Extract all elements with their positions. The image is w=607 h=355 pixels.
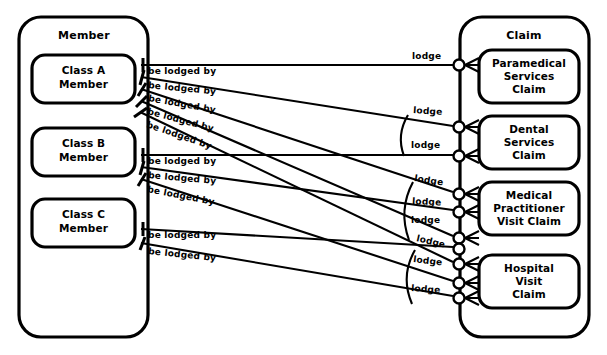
dental-claim-label-line1: Dental: [509, 123, 549, 135]
subtype-class-a-member[interactable]: Class A Member: [32, 55, 135, 103]
hospital-claim-label-line2: Visit: [516, 275, 543, 287]
right-label-6: lodge: [411, 215, 440, 225]
arc-brace-dental: [401, 115, 408, 156]
r1-optional-circle: [454, 60, 465, 71]
class-b-member-label-line2: Member: [59, 151, 109, 163]
relationship-r10[interactable]: [140, 237, 479, 305]
class-c-member-label-line2: Member: [59, 222, 109, 234]
left-label-10: be lodged by: [148, 246, 217, 263]
r10-optional-circle: [454, 293, 465, 304]
class-a-member-label-line1: Class A: [62, 64, 106, 76]
paramedical-claim-label-line1: Paramedical: [492, 57, 566, 69]
member-title: Member: [58, 29, 110, 42]
left-label-6: be lodged by: [148, 156, 216, 166]
r5-optional-circle: [454, 259, 465, 270]
r9-optional-circle: [454, 244, 465, 255]
medical-claim-label-line1: Medical: [506, 189, 552, 201]
right-label-4: lodge: [414, 173, 444, 187]
right-label-5: lodge: [412, 196, 442, 208]
left-label-8: be lodged by: [147, 184, 216, 207]
hospital-claim-label-line1: Hospital: [504, 262, 554, 274]
er-diagram: Member Class A Member Class B Member Cla…: [0, 0, 607, 355]
relationship-r7[interactable]: [140, 161, 479, 219]
r3-optional-circle: [454, 189, 465, 200]
r4-optional-circle: [454, 233, 465, 244]
class-b-member-label-line1: Class B: [62, 137, 105, 149]
medical-claim-label-line3: Visit Claim: [497, 215, 561, 227]
arc-brace-medical: [404, 182, 413, 240]
r2-optional-circle: [454, 122, 465, 133]
subtype-dental-services-claim[interactable]: Dental Services Claim: [479, 116, 579, 169]
subtype-paramedical-services-claim[interactable]: Paramedical Services Claim: [479, 50, 579, 103]
right-label-9: lodge: [411, 283, 441, 295]
class-c-member-label-line1: Class C: [62, 208, 105, 220]
subtype-class-b-member[interactable]: Class B Member: [32, 128, 135, 176]
subtype-class-c-member[interactable]: Class C Member: [32, 199, 135, 247]
subtype-hospital-visit-claim[interactable]: Hospital Visit Claim: [479, 255, 579, 308]
right-label-3: lodge: [411, 140, 440, 150]
diagram-canvas: Member Class A Member Class B Member Cla…: [0, 0, 607, 355]
right-label-8: lodge: [413, 254, 443, 267]
claim-title: Claim: [506, 29, 542, 42]
hospital-claim-label-line3: Claim: [512, 288, 545, 300]
dental-claim-label-line2: Services: [504, 136, 555, 148]
medical-claim-label-line2: Practitioner: [493, 202, 565, 214]
right-label-1: lodge: [412, 51, 441, 61]
dental-claim-label-line3: Claim: [512, 149, 545, 161]
class-a-member-label-line2: Member: [59, 78, 109, 90]
paramedical-claim-label-line2: Services: [504, 70, 555, 82]
r8-optional-circle: [454, 278, 465, 289]
r7-optional-circle: [454, 207, 465, 218]
r6-optional-circle: [454, 151, 465, 162]
left-label-1: be lodged by: [148, 66, 216, 76]
right-label-2: lodge: [413, 105, 443, 117]
subtype-medical-practitioner-visit-claim[interactable]: Medical Practitioner Visit Claim: [479, 182, 579, 235]
left-label-9: be lodged by: [148, 230, 216, 240]
paramedical-claim-label-line3: Claim: [512, 83, 545, 95]
